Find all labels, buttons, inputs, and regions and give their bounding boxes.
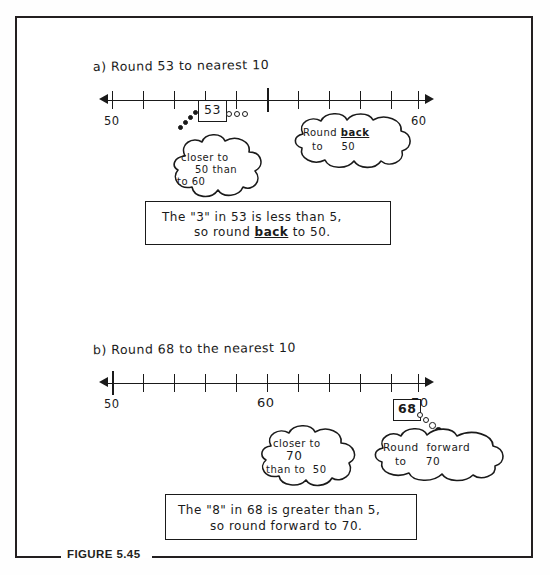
value-box-a: 53 [198, 100, 227, 122]
trail-dot-b-0 [417, 412, 423, 418]
axis-label-a-left: 50 [104, 114, 120, 128]
tick-a-5 [267, 88, 269, 112]
caption-rule-left [15, 556, 61, 558]
part-b-heading: b) Round 68 to the nearest 10 [93, 340, 296, 357]
part-a-closer-cloud: closer to 50 than to 60 [167, 130, 269, 202]
axis-label-b-middle: 60 [257, 395, 275, 410]
cloud-b1-line3: than to 50 [266, 463, 327, 477]
trail-dot-a-2 [183, 120, 188, 125]
tick-a-9 [391, 91, 392, 109]
figure-page: a) Round 53 to nearest 10 50 60 [0, 0, 550, 575]
axis-arrow-right-a [425, 94, 434, 104]
value-box-b: 68 [393, 399, 421, 421]
part-b-statement-line1: The "8" in 68 is greater than 5, [178, 503, 380, 517]
tick-a-1 [143, 91, 144, 109]
trail-dot-right-a-1 [234, 111, 240, 117]
cloud-a2-underlined-word: back [341, 127, 369, 138]
tick-b-6 [298, 374, 299, 392]
tick-a-4 [236, 91, 237, 109]
part-b-number-line: 50 60 70 [107, 367, 427, 407]
trail-dot-right-a-2 [242, 111, 248, 117]
figure-caption: FIGURE 5.45 [67, 548, 140, 560]
tick-a-7 [329, 91, 330, 109]
tick-b-3 [205, 374, 206, 392]
tick-a-0 [112, 91, 113, 109]
axis-arrow-left-b [99, 377, 108, 387]
tick-b-8 [360, 374, 361, 392]
tick-b-4 [236, 374, 237, 392]
cloud-a1-line3: to 60 [177, 175, 205, 189]
tick-b-1 [143, 374, 144, 392]
cloud-b1-line2: 70 [286, 448, 302, 464]
axis-arrow-left-a [99, 94, 108, 104]
cloud-a2-line1: Round back [303, 126, 369, 140]
part-b-round-cloud: Round forward to 70 [369, 426, 509, 484]
tick-a-8 [360, 91, 361, 109]
tick-b-5 [267, 374, 268, 392]
tick-a-10 [418, 91, 419, 109]
part-a-round-cloud: Round back to 50 [289, 110, 417, 172]
caption-rule-right [152, 556, 533, 558]
part-a-statement-box: The "3" in 53 is less than 5, so round b… [145, 201, 391, 245]
part-b-statement-box: The "8" in 68 is greater than 5, so roun… [165, 494, 417, 540]
part-a-statement-underlined-word: back [255, 225, 289, 239]
part-a-statement-line2: so round back to 50. [194, 225, 331, 239]
cloud-b2-line1: Round forward [383, 440, 470, 454]
tick-b-7 [329, 374, 330, 392]
axis-label-b-left: 50 [104, 397, 120, 411]
tick-b-0 [112, 371, 114, 395]
part-a-statement-line1: The "3" in 53 is less than 5, [162, 210, 342, 224]
tick-b-9 [391, 374, 392, 392]
tick-a-6 [298, 91, 299, 109]
part-b-statement-line2: so round forward to 70. [210, 519, 362, 533]
trail-dot-a-0 [193, 110, 198, 115]
axis-arrow-right-b [425, 377, 434, 387]
cloud-b2-line2: to 70 [395, 454, 440, 468]
trail-dot-b-1 [423, 417, 429, 423]
trail-dot-right-a-0 [226, 111, 232, 117]
part-b-closer-cloud: closer to 70 than to 50 [255, 422, 365, 488]
tick-a-2 [174, 91, 175, 109]
figure-frame: a) Round 53 to nearest 10 50 60 [15, 16, 533, 558]
tick-b-2 [174, 374, 175, 392]
cloud-a2-line2: to 50 [312, 140, 355, 154]
trail-dot-a-1 [188, 115, 193, 120]
tick-b-10 [418, 374, 419, 392]
part-a-heading: a) Round 53 to nearest 10 [93, 57, 269, 74]
